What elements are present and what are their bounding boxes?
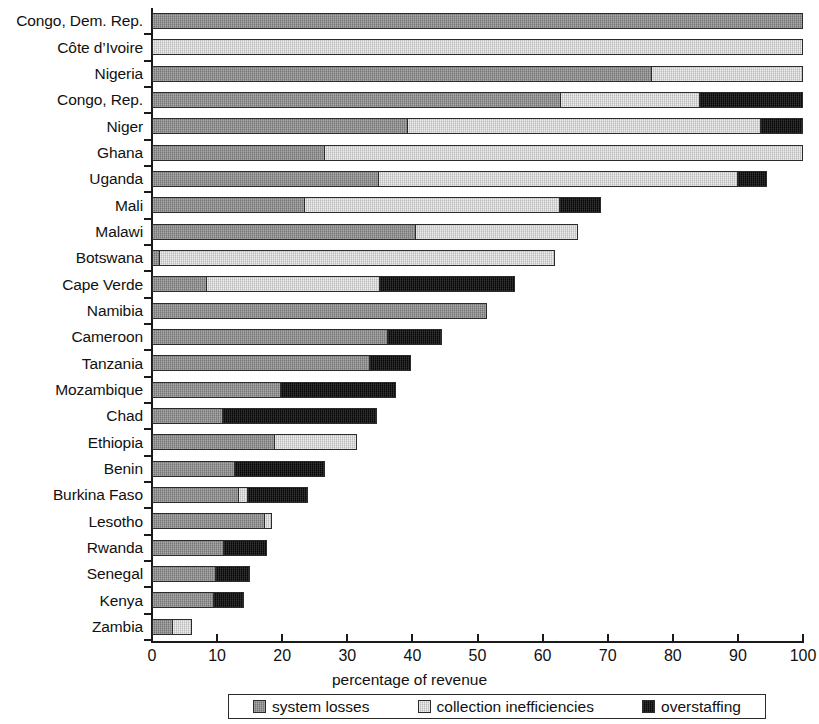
y-axis-tick	[144, 112, 152, 114]
category-label: Côte d’Ivoire	[57, 40, 143, 56]
category-label: Mozambique	[55, 382, 143, 398]
bar-segment-collection-inefficiencies	[172, 620, 192, 634]
bar-segment-system-losses	[153, 304, 486, 318]
chart-row: Congo, Rep.	[152, 87, 803, 113]
x-axis-tick-label: 60	[534, 648, 552, 664]
bar-segment-collection-inefficiencies	[415, 225, 578, 239]
legend-item: overstaffing	[642, 698, 741, 716]
bar-segment-system-losses	[153, 488, 238, 502]
y-axis-tick	[144, 165, 152, 167]
stacked-bar	[152, 250, 555, 266]
chart-row: Mozambique	[152, 377, 803, 403]
category-label: Congo, Dem. Rep.	[16, 13, 143, 29]
chart-row: Rwanda	[152, 535, 803, 561]
stacked-bar-chart: 0102030405060708090100 Congo, Dem. Rep.C…	[0, 0, 819, 724]
bar-segment-system-losses	[153, 198, 304, 212]
category-label: Namibia	[87, 303, 143, 319]
stacked-bar	[152, 276, 515, 292]
stacked-bar	[152, 382, 396, 398]
x-axis-tick-label: 90	[729, 648, 747, 664]
bar-segment-system-losses	[153, 435, 274, 449]
stacked-bar	[152, 224, 578, 240]
category-label: Niger	[106, 119, 143, 135]
x-axis-tick-label: 40	[403, 648, 421, 664]
bar-segment-collection-inefficiencies	[264, 514, 271, 528]
y-axis-tick	[144, 349, 152, 351]
category-label: Chad	[106, 408, 143, 424]
category-label: Malawi	[95, 224, 143, 240]
y-axis-tick	[144, 323, 152, 325]
category-label: Tanzania	[82, 356, 143, 372]
chart-row: Cape Verde	[152, 271, 803, 297]
bar-segment-collection-inefficiencies	[304, 198, 559, 212]
stacked-bar	[152, 39, 803, 55]
x-axis-tick-label: 70	[599, 648, 617, 664]
y-axis-tick	[144, 297, 152, 299]
x-axis-title: percentage of revenue	[0, 671, 819, 689]
x-axis-tick-label: 50	[469, 648, 487, 664]
chart-legend: system lossescollection inefficienciesov…	[228, 694, 766, 719]
stacked-bar	[152, 461, 325, 477]
chart-row: Malawi	[152, 219, 803, 245]
legend-item: collection inefficiencies	[418, 698, 594, 716]
chart-row: Burkina Faso	[152, 482, 803, 508]
plot-area: Congo, Dem. Rep.Côte d’IvoireNigeriaCong…	[152, 8, 803, 640]
legend-label: overstaffing	[661, 698, 741, 716]
bar-segment-system-losses	[153, 225, 415, 239]
stacked-bar	[152, 118, 803, 134]
legend-item: system losses	[253, 698, 369, 716]
stacked-bar	[152, 592, 244, 608]
y-axis-tick	[144, 428, 152, 430]
chart-row: Namibia	[152, 298, 803, 324]
bar-segment-overstaffing	[559, 198, 600, 212]
stacked-bar	[152, 13, 803, 29]
stacked-bar	[152, 566, 250, 582]
bar-segment-collection-inefficiencies	[159, 251, 554, 265]
bar-segment-collection-inefficiencies	[407, 119, 759, 133]
category-label: Rwanda	[87, 540, 143, 556]
category-label: Burkina Faso	[53, 487, 143, 503]
x-axis-tick-label: 20	[273, 648, 291, 664]
bar-segment-system-losses	[153, 383, 280, 397]
x-axis-tick-label: 10	[208, 648, 226, 664]
y-axis-tick	[144, 218, 152, 220]
category-label: Benin	[104, 461, 143, 477]
y-axis-tick	[144, 613, 152, 615]
y-axis-tick	[144, 376, 152, 378]
y-axis-tick	[144, 534, 152, 536]
y-axis-tick	[144, 244, 152, 246]
category-label: Ghana	[97, 145, 143, 161]
stacked-bar	[152, 171, 767, 187]
y-axis-tick	[144, 139, 152, 141]
bar-segment-overstaffing	[234, 462, 324, 476]
bar-segment-collection-inefficiencies	[378, 172, 737, 186]
stacked-bar	[152, 329, 442, 345]
chart-row: Benin	[152, 456, 803, 482]
stacked-bar	[152, 355, 411, 371]
y-axis-tick	[144, 60, 152, 62]
category-label: Congo, Rep.	[57, 92, 143, 108]
bar-segment-collection-inefficiencies	[153, 40, 802, 54]
y-axis-tick	[144, 270, 152, 272]
bar-segment-collection-inefficiencies	[206, 277, 379, 291]
bar-segment-collection-inefficiencies	[324, 146, 802, 160]
bar-segment-system-losses	[153, 567, 215, 581]
bar-segment-overstaffing	[247, 488, 307, 502]
stacked-bar	[152, 66, 803, 82]
legend-swatch-overstaffing	[642, 700, 655, 713]
bar-segment-system-losses	[153, 541, 223, 555]
bar-segment-overstaffing	[379, 277, 514, 291]
category-label: Mali	[115, 198, 143, 214]
chart-row: Congo, Dem. Rep.	[152, 8, 803, 34]
bar-segment-overstaffing	[223, 541, 267, 555]
x-axis-tick-label: 30	[338, 648, 356, 664]
category-label: Lesotho	[89, 514, 143, 530]
stacked-bar	[152, 303, 487, 319]
bar-segment-system-losses	[153, 93, 560, 107]
bar-segment-system-losses	[153, 514, 264, 528]
y-axis-tick	[144, 560, 152, 562]
category-label: Senegal	[87, 566, 143, 582]
bar-segment-overstaffing	[737, 172, 766, 186]
stacked-bar	[152, 145, 803, 161]
category-label: Kenya	[100, 593, 143, 609]
